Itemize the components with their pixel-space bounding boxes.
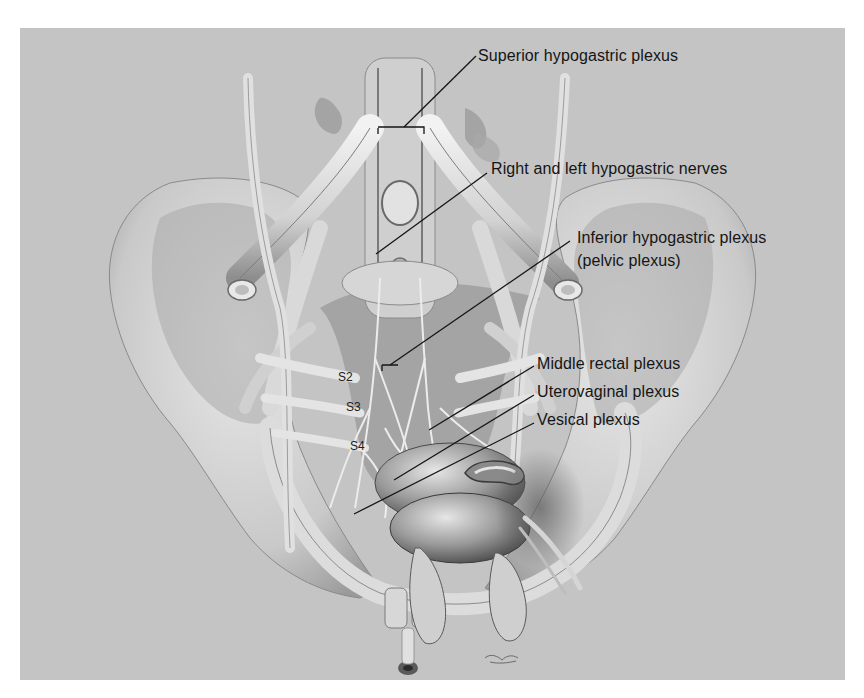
label-uterovaginal-plexus: Uterovaginal plexus	[537, 383, 679, 401]
label-pelvic-plexus: (pelvic plexus)	[577, 252, 681, 270]
label-s4: S4	[350, 440, 365, 453]
label-vesical-plexus: Vesical plexus	[537, 411, 640, 429]
label-middle-rectal-plexus: Middle rectal plexus	[537, 355, 680, 373]
label-inferior-hypogastric-plexus: Inferior hypogastric plexus	[577, 229, 766, 247]
label-hypogastric-nerves: Right and left hypogastric nerves	[491, 160, 727, 178]
illustration-panel	[20, 28, 845, 680]
artist-signature	[485, 655, 518, 663]
label-superior-hypogastric-plexus: Superior hypogastric plexus	[478, 47, 678, 65]
pelvis-illustration	[20, 28, 845, 680]
label-s2: S2	[338, 371, 353, 384]
label-s3: S3	[346, 401, 361, 414]
